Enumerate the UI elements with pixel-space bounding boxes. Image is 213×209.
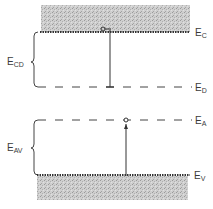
label-eav: EAV [7,143,23,156]
label-ea: EA [195,116,206,129]
band-diagram [0,0,213,209]
label-ev: EV [194,171,205,184]
label-ecd: ECD [7,57,24,70]
ecd-brace [31,32,38,87]
arrow-head-icon [124,124,128,129]
hole-icon [124,118,128,122]
valence-band [37,176,188,200]
label-ed: ED [195,83,207,96]
conduction-band [41,5,190,32]
eav-brace [31,120,38,175]
label-ec: EC [195,28,207,41]
